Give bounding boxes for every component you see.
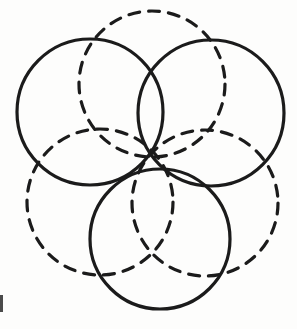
background-rect [0,0,297,329]
figure-canvas [0,0,297,329]
scan-edge-artifact [0,295,3,312]
six-circles-diagram [0,0,297,329]
